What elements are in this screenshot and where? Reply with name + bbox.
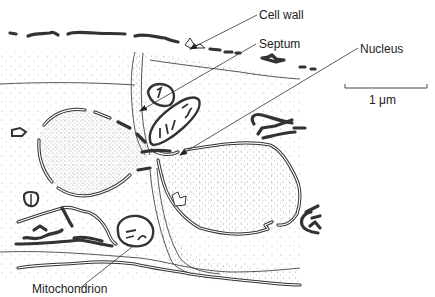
mitochondrion-lower (118, 216, 154, 246)
hypha-septum-diagram: Cell wall Septum Nucleus Mitochondrion 1… (0, 0, 435, 297)
mitochondrion-left-small (24, 192, 38, 206)
septum-label: Septum (259, 37, 300, 51)
cell-wall-leader (190, 15, 257, 49)
nucleus-label: Nucleus (360, 42, 403, 56)
scale-bar-label: 1 μm (369, 93, 396, 107)
mitochondrion-right-lower (302, 206, 320, 233)
mitochondrion-label: Mitochondrion (32, 282, 107, 296)
scale-bar: 1 μm (345, 84, 427, 107)
cell-wall-label: Cell wall (259, 8, 304, 22)
